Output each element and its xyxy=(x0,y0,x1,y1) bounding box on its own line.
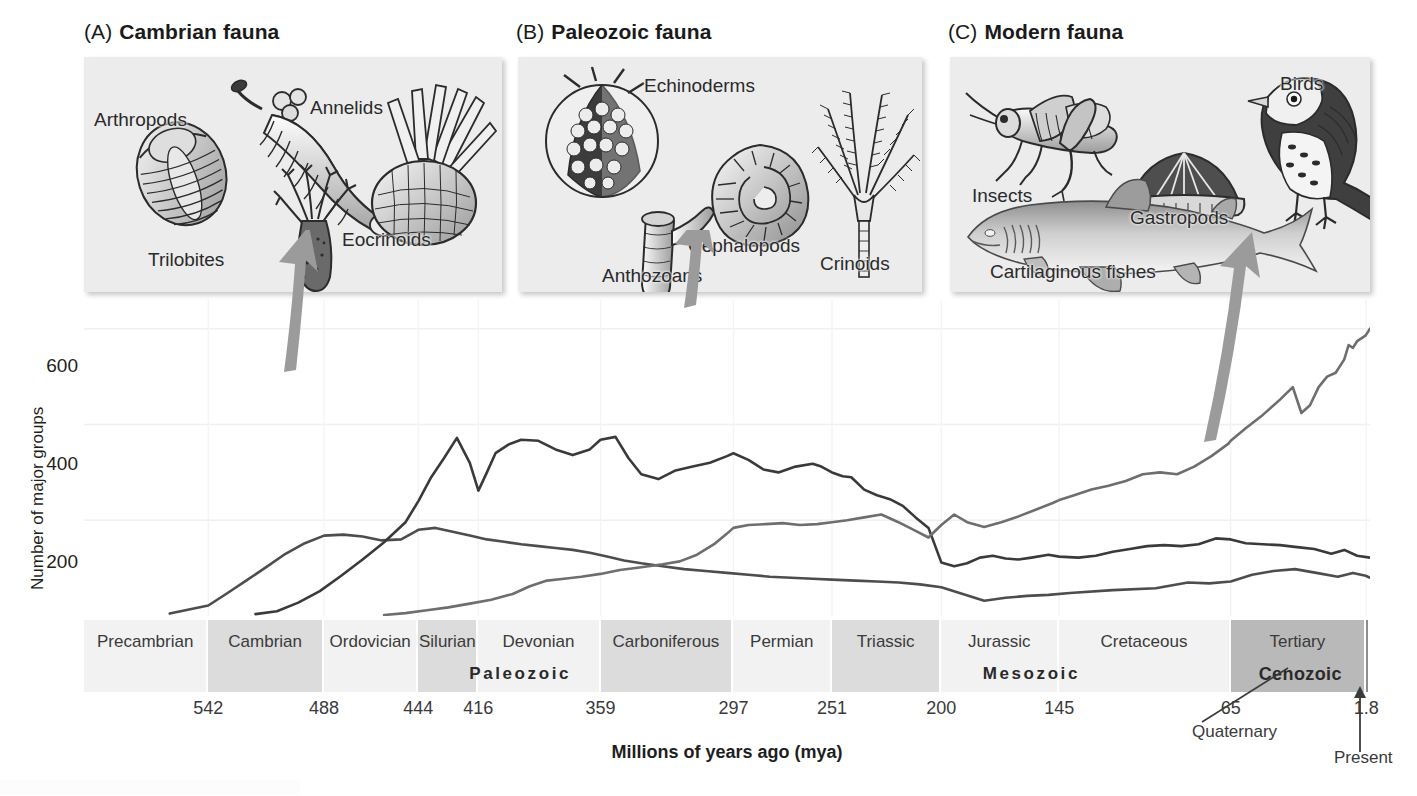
label-echinoderms: Echinoderms xyxy=(644,75,755,97)
geologic-time-scale: PrecambrianCambrianOrdovicianSilurianDev… xyxy=(84,620,1370,692)
period-label: Triassic xyxy=(857,632,915,652)
y-tick-600: 600 xyxy=(20,355,78,377)
label-anthozoans: Anthozoans xyxy=(602,265,702,287)
panel-b-label: Paleozoic fauna xyxy=(551,20,711,43)
x-tick-251: 251 xyxy=(792,698,872,719)
period-label: Devonian xyxy=(503,632,575,652)
label-cartilaginous-fishes: Cartilaginous fishes xyxy=(990,261,1156,283)
period-label: Cambrian xyxy=(228,632,302,652)
panel-c-label: Modern fauna xyxy=(984,20,1123,43)
period-label: Permian xyxy=(750,632,813,652)
period-cretaceous[interactable]: Cretaceous xyxy=(1059,620,1228,692)
panel-a-tag: (A) xyxy=(84,20,112,43)
period-label: Carboniferous xyxy=(613,632,720,652)
y-tick-400: 400 xyxy=(20,453,78,475)
period-label: Jurassic xyxy=(968,632,1030,652)
x-tick-1.8: 1.8 xyxy=(1326,698,1406,719)
label-cephalopods: Cephalopods xyxy=(688,235,800,257)
x-axis-title: Millions of years ago (mya) xyxy=(84,742,1370,763)
x-tick-359: 359 xyxy=(561,698,641,719)
period-silurian[interactable]: Silurian xyxy=(418,620,476,692)
period-label: Precambrian xyxy=(97,632,193,652)
period-ordovician[interactable]: Ordovician xyxy=(324,620,416,692)
panel-a-title: (A)Cambrian fauna xyxy=(84,20,279,44)
era-label-paleozoic: Paleozoic xyxy=(469,664,571,684)
label-birds: Birds xyxy=(1280,73,1323,95)
x-tick-65: 65 xyxy=(1191,698,1271,719)
x-tick-416: 416 xyxy=(438,698,518,719)
x-tick-145: 145 xyxy=(1019,698,1099,719)
period-label: Ordovician xyxy=(330,632,411,652)
label-arthropods: Arthropods xyxy=(94,109,187,131)
period-cambrian[interactable]: Cambrian xyxy=(208,620,322,692)
panel-b-title: (B)Paleozoic fauna xyxy=(516,20,712,44)
x-tick-297: 297 xyxy=(693,698,773,719)
period-permian[interactable]: Permian xyxy=(733,620,830,692)
panel-b-tag: (B) xyxy=(516,20,544,43)
label-eocrinoids: Eocrinoids xyxy=(342,229,431,251)
label-annelids: Annelids xyxy=(310,97,383,119)
label-gastropods: Gastropods xyxy=(1130,207,1228,229)
panel-c-title: (C)Modern fauna xyxy=(948,20,1123,44)
period-precambrian[interactable]: Precambrian xyxy=(84,620,206,692)
x-tick-488: 488 xyxy=(284,698,364,719)
chart-plot-area xyxy=(84,300,1370,616)
x-tick-542: 542 xyxy=(168,698,248,719)
panel-b-image: Echinoderms Cephalopods Crinoids Anthozo… xyxy=(518,57,922,292)
period-carboniferous[interactable]: Carboniferous xyxy=(601,620,732,692)
panel-a-label: Cambrian fauna xyxy=(119,20,279,43)
diversity-curves xyxy=(84,300,1370,616)
quaternary-annotation: Quaternary xyxy=(1192,722,1277,742)
x-tick-200: 200 xyxy=(901,698,981,719)
y-tick-200: 200 xyxy=(20,551,78,573)
era-label-mesozoic: Mesozoic xyxy=(983,664,1080,684)
period-label: Cretaceous xyxy=(1100,632,1187,652)
panel-c-image: Insects Gastropods Birds Cartilaginous f… xyxy=(950,57,1370,292)
period-label: Tertiary xyxy=(1270,632,1326,652)
panel-c-tag: (C) xyxy=(948,20,977,43)
plot-background xyxy=(84,300,1370,616)
x-axis-tick-labels: 542488444416359297251200145651.8 xyxy=(84,698,1370,724)
panel-a-image: Arthropods Annelids Trilobites Eocrinoid… xyxy=(84,57,502,292)
label-insects: Insects xyxy=(972,185,1032,207)
period-label: Silurian xyxy=(419,632,476,652)
figure-caption-strip xyxy=(0,780,300,794)
label-crinoids: Crinoids xyxy=(820,253,890,275)
cambrian-fauna-illustration xyxy=(84,57,502,292)
period-triassic[interactable]: Triassic xyxy=(832,620,939,692)
label-trilobites: Trilobites xyxy=(148,249,224,271)
era-label-cenozoic: Cenozoic xyxy=(1259,664,1342,685)
period-quaternary[interactable] xyxy=(1366,620,1368,692)
